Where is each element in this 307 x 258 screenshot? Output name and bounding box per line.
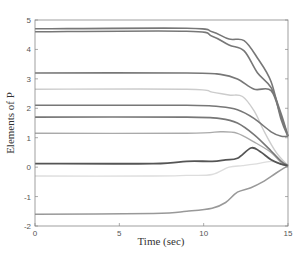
x-tick-label: 5 bbox=[117, 229, 122, 238]
x-axis-label: Time (sec) bbox=[138, 235, 185, 248]
y-tick-label: 1 bbox=[27, 134, 32, 143]
y-tick-label: 4 bbox=[27, 45, 32, 54]
y-tick-label: 3 bbox=[27, 75, 32, 84]
series-line-p1 bbox=[35, 28, 288, 136]
x-tick-label: 15 bbox=[284, 229, 293, 238]
series-line-p6 bbox=[35, 117, 288, 166]
y-tick-label: -2 bbox=[24, 222, 32, 231]
y-axis-label: Elements of P bbox=[4, 92, 16, 154]
y-tick-label: -1 bbox=[24, 193, 32, 202]
y-tick-label: 2 bbox=[27, 104, 32, 113]
x-tick-label: 10 bbox=[199, 229, 208, 238]
line-chart: -2-1012345051015 Time (sec) Elements of … bbox=[0, 0, 307, 258]
x-tick-label: 0 bbox=[33, 229, 38, 238]
series-line-p4 bbox=[35, 89, 288, 166]
series-line-p8 bbox=[35, 148, 288, 166]
y-tick-label: 5 bbox=[27, 16, 32, 25]
y-tick-label: 0 bbox=[27, 163, 32, 172]
series-layer bbox=[35, 28, 288, 214]
plot-frame bbox=[35, 20, 288, 226]
series-line-p10 bbox=[35, 166, 288, 215]
